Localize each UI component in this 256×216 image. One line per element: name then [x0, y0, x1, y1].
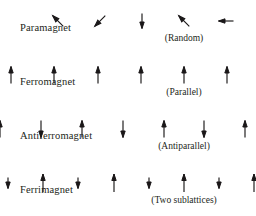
row-caption-antiferromagnet: (Antiparallel) — [112, 141, 256, 151]
row-ferromagnet: Ferromagnet (Parallel) — [0, 60, 256, 114]
spin-up-arrow-icon — [0, 58, 28, 92]
row-paramagnet: Paramagnet (Random) — [0, 6, 256, 60]
spin-strip-ferromagnet — [112, 60, 256, 90]
row-caption-ferromagnet: (Parallel) — [112, 87, 256, 97]
spin-up-arrow-icon — [81, 58, 115, 92]
spin-up-arrow-icon — [0, 112, 17, 146]
row-ferrimagnet: Ferrimagnet (Two sublattices) — [0, 168, 256, 216]
spin-down-arrow-icon — [24, 112, 58, 146]
magnetic-ordering-figure: Paramagnet (Random) Ferromagnet (Paralle… — [0, 0, 256, 216]
spin-up-arrow-icon — [65, 112, 99, 146]
spin-strip-antiferromagnet — [112, 114, 256, 144]
spin-up-left-arrow-icon — [41, 4, 75, 38]
spin-down-short-arrow-icon — [0, 166, 25, 200]
spin-strip-paramagnet — [112, 6, 256, 36]
row-caption-ferrimagnet: (Two sublattices) — [112, 195, 256, 205]
spin-up-arrow-icon — [26, 166, 60, 200]
spin-down-short-arrow-icon — [61, 166, 95, 200]
row-caption-paramagnet: (Random) — [112, 33, 256, 43]
spin-up-arrow-icon — [37, 58, 71, 92]
spin-strip-ferrimagnet — [112, 168, 256, 198]
row-antiferromagnet: Antiferromagnet (Antiparallel) — [0, 114, 256, 168]
